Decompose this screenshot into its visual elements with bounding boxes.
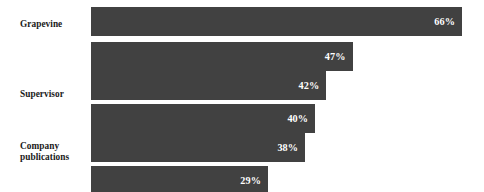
category-label-line1: Grapevine (20, 19, 62, 29)
chart-bar-row: Management meetings 29% (0, 166, 484, 192)
bar-track: 29% (91, 166, 462, 192)
bar-track: 66% (91, 7, 462, 36)
bar-track: 47% (91, 42, 462, 71)
bar-value-label: 47% (325, 51, 353, 62)
bar-value-label: 66% (434, 16, 462, 27)
bar-value-label: 40% (287, 113, 315, 124)
bar-value-label: 29% (240, 175, 268, 186)
chart-plot-area: Grapevine 66% Supervisor 47% Company (0, 0, 484, 192)
chart-bar-row: Supervisor 47% (0, 42, 484, 71)
bar-value-label: 38% (277, 142, 305, 153)
chart-bar-row: Grapevine 66% (0, 7, 484, 36)
chart-bar-row: Memos 40% (0, 104, 484, 133)
chart-bar-row: Bulletin boards 38% (0, 133, 484, 162)
bar-management-meetings[interactable]: 29% (91, 166, 268, 192)
bar-track: 42% (91, 71, 462, 100)
category-label: Grapevine (20, 19, 88, 30)
chart-bar-row: Company publications 42% (0, 71, 484, 100)
bar-chart-figure: Grapevine 66% Supervisor 47% Company (0, 0, 484, 192)
bar-memos[interactable]: 40% (91, 104, 315, 133)
bar-grapevine[interactable]: 66% (91, 7, 462, 36)
bar-supervisor[interactable]: 47% (91, 42, 353, 71)
bar-bulletin-boards[interactable]: 38% (91, 133, 305, 162)
bar-company-publications[interactable]: 42% (91, 71, 326, 100)
bar-track: 40% (91, 104, 462, 133)
bar-track: 38% (91, 133, 462, 162)
bar-value-label: 42% (299, 80, 327, 91)
